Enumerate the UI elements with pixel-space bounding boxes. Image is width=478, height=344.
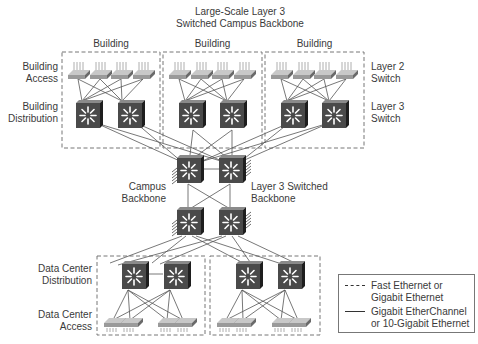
workgroup-switch-icon: [111, 62, 133, 79]
legend-item-solid: Gigabit EtherChannel or 10-Gigabit Ether…: [345, 306, 469, 329]
workgroup-switch-icon: [133, 62, 155, 79]
multilayer-switch-icon: [76, 100, 103, 128]
workgroup-switch-icon: [271, 62, 293, 79]
multilayer-switch-icon: [179, 100, 206, 128]
workgroup-switch-icon: [234, 318, 256, 332]
solid-line-swatch: [345, 311, 365, 312]
legend-item-dashed: Fast Ethernet or Gigabit Ethernet: [345, 280, 443, 303]
multilayer-switch-icon: [220, 100, 247, 128]
multilayer-switch-icon: [281, 100, 308, 128]
multilayer-switch-icon: [236, 261, 263, 289]
workgroup-switch-icon: [121, 318, 143, 332]
workgroup-switch-icon: [336, 62, 358, 79]
dc-access-switches: [104, 318, 311, 332]
multilayer-switch-icon: [122, 261, 149, 289]
workgroup-switch-icon: [169, 62, 191, 79]
workgroup-switch-icon: [68, 62, 90, 79]
workgroup-switch-icon: [191, 62, 213, 79]
multilayer-switch-icon: [164, 261, 191, 289]
multilayer-switch-icon: [322, 100, 349, 128]
multilayer-switch-icon: [177, 207, 204, 235]
dc-distribution-switches: [122, 261, 305, 289]
multilayer-switch-icon: [219, 155, 246, 183]
building-access-switches: [68, 62, 358, 79]
multilayer-switch-icon: [219, 207, 246, 235]
workgroup-switch-icon: [90, 62, 112, 79]
legend: Fast Ethernet or Gigabit Ethernet Gigabi…: [338, 274, 475, 333]
workgroup-switch-icon: [293, 62, 315, 79]
workgroup-switch-icon: [289, 318, 311, 332]
multilayer-switch-icon: [118, 100, 145, 128]
building-distribution-switches: [76, 100, 349, 128]
dashed-line-swatch: [345, 285, 365, 286]
multilayer-switch-icon: [177, 155, 204, 183]
workgroup-switch-icon: [175, 318, 197, 332]
multilayer-switch-icon: [278, 261, 305, 289]
workgroup-switch-icon: [212, 62, 234, 79]
workgroup-switch-icon: [234, 62, 256, 79]
workgroup-switch-icon: [314, 62, 336, 79]
